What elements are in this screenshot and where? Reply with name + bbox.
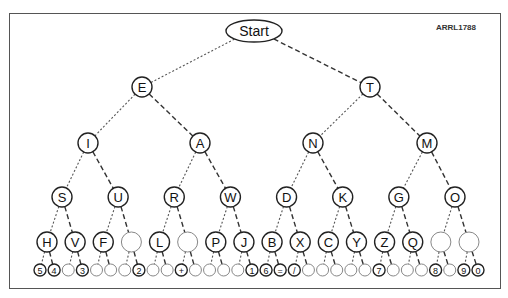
- dit-branch: [388, 207, 396, 233]
- dah-branch: [346, 207, 354, 233]
- node-7: 7: [373, 264, 385, 276]
- dit-branch: [95, 94, 135, 136]
- svg-text:5: 5: [37, 266, 42, 276]
- start-node: Start: [226, 20, 282, 42]
- node-2: 2: [133, 264, 145, 276]
- node-F: F: [93, 232, 113, 252]
- node-S: S: [52, 187, 72, 207]
- svg-text:X: X: [296, 235, 305, 250]
- svg-text:E: E: [138, 80, 147, 95]
- dit-branch: [151, 35, 242, 82]
- dah-branch: [458, 207, 466, 233]
- dah-branch: [416, 252, 420, 265]
- empty-node: [62, 264, 74, 276]
- empty-node: [121, 232, 141, 252]
- empty-node: [189, 264, 201, 276]
- svg-text:T: T: [366, 80, 374, 95]
- dah-branch: [162, 252, 165, 265]
- svg-text:Y: Y: [352, 235, 361, 250]
- svg-text:8: 8: [433, 266, 438, 276]
- empty-node: [204, 264, 216, 276]
- node-+: +: [175, 264, 187, 276]
- empty-node: [459, 232, 479, 252]
- empty-node: [302, 264, 314, 276]
- empty-node: [444, 264, 456, 276]
- dit-branch: [163, 207, 172, 233]
- dah-branch: [78, 252, 81, 265]
- svg-text:R: R: [170, 190, 179, 205]
- svg-text:K: K: [338, 190, 347, 205]
- svg-text:H: H: [42, 235, 51, 250]
- dit-branch: [126, 252, 129, 264]
- node-3: 3: [76, 264, 88, 276]
- node-8: 8: [430, 264, 442, 276]
- dah-branch: [377, 94, 420, 136]
- node-L: L: [150, 232, 170, 252]
- svg-text:F: F: [99, 235, 107, 250]
- node-V: V: [65, 232, 85, 252]
- svg-text:6: 6: [264, 266, 269, 276]
- empty-node: [91, 264, 103, 276]
- dit-branch: [465, 252, 467, 264]
- svg-text:+: +: [179, 266, 184, 276]
- svg-text:A: A: [196, 136, 205, 151]
- node-W: W: [220, 187, 240, 207]
- node-T: T: [360, 77, 380, 97]
- node-U: U: [108, 187, 128, 207]
- morse-code-tree: StartETIANMSURWDKGOHVFLPJBXCYZQ5432+16=/…: [0, 0, 508, 298]
- dit-branch: [70, 252, 73, 264]
- node-=: =: [274, 264, 286, 276]
- svg-text:J: J: [241, 235, 248, 250]
- svg-text:W: W: [224, 190, 237, 205]
- dah-branch: [388, 252, 392, 265]
- node-C: C: [318, 232, 338, 252]
- node-5: 5: [34, 264, 46, 276]
- empty-node: [359, 264, 371, 276]
- node-4: 4: [48, 264, 60, 276]
- empty-node: [331, 264, 343, 276]
- svg-text:Start: Start: [239, 23, 269, 39]
- dit-branch: [408, 252, 410, 264]
- node-9: 9: [458, 264, 470, 276]
- node-J: J: [234, 232, 254, 252]
- node-H: H: [37, 232, 57, 252]
- dit-branch: [50, 206, 59, 232]
- empty-node: [345, 264, 357, 276]
- dah-branch: [65, 207, 73, 233]
- dit-branch: [41, 252, 44, 264]
- dit-branch: [437, 252, 439, 264]
- empty-node: [387, 264, 399, 276]
- node-M: M: [417, 133, 437, 153]
- dah-branch: [444, 252, 448, 265]
- svg-text:L: L: [156, 235, 163, 250]
- node-I: I: [78, 133, 98, 153]
- dit-branch: [267, 252, 270, 264]
- dah-branch: [121, 207, 129, 233]
- dit-branch: [179, 152, 196, 188]
- empty-node: [317, 264, 329, 276]
- empty-node: [415, 264, 427, 276]
- dah-branch: [359, 252, 363, 265]
- node-X: X: [290, 232, 310, 252]
- node-B: B: [262, 232, 282, 252]
- svg-text:M: M: [422, 136, 433, 151]
- dit-branch: [403, 152, 422, 188]
- svg-text:B: B: [268, 235, 277, 250]
- dit-branch: [98, 252, 101, 264]
- dah-branch: [233, 207, 241, 233]
- node-N: N: [303, 133, 323, 153]
- node-/: /: [288, 264, 300, 276]
- svg-text:Q: Q: [408, 235, 418, 250]
- svg-text:2: 2: [136, 266, 141, 276]
- dit-branch: [444, 207, 452, 233]
- empty-node: [232, 264, 244, 276]
- node-O: O: [445, 187, 465, 207]
- empty-node: [147, 264, 159, 276]
- dah-branch: [267, 35, 361, 82]
- dah-branch: [205, 152, 226, 189]
- svg-text:Z: Z: [381, 235, 389, 250]
- node-Z: Z: [375, 232, 395, 252]
- dit-branch: [106, 206, 115, 232]
- svg-text:=: =: [278, 266, 283, 276]
- node-R: R: [164, 187, 184, 207]
